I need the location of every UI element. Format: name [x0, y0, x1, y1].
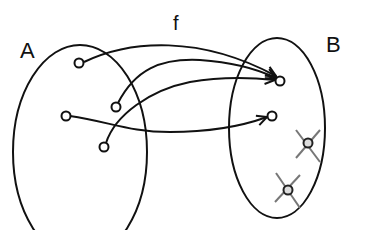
domain-element-a1 [75, 59, 84, 68]
crossed-element-b3 [296, 130, 320, 162]
domain-element-a3 [62, 112, 71, 121]
function-label: f [173, 12, 179, 34]
mapping-arrow-a3-b2 [70, 116, 267, 132]
codomain-element-b2 [268, 112, 277, 121]
set-a-label: A [20, 38, 35, 63]
set-b-label: B [326, 32, 341, 57]
function-mapping-diagram: A B f [0, 0, 367, 230]
domain-element-a2 [112, 103, 121, 112]
codomain-element-b1 [276, 77, 285, 86]
set-b-ellipse [229, 38, 325, 218]
crossed-element-b4 [275, 173, 300, 208]
set-a-ellipse [13, 45, 147, 230]
mapping-arrow-a4-b1 [106, 78, 275, 143]
domain-element-a4 [100, 143, 109, 152]
